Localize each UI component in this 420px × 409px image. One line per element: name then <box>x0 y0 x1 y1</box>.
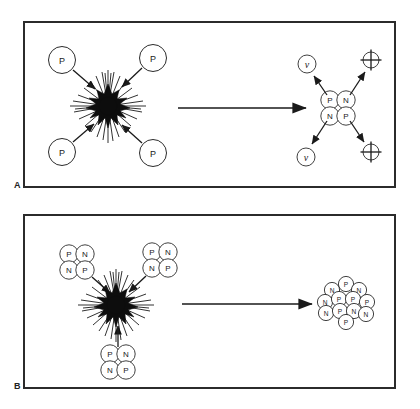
nucleon-label: N <box>149 264 155 273</box>
nucleon-label: P <box>327 96 332 105</box>
nucleon-label: P <box>344 281 349 288</box>
neutrino-label: ν <box>304 152 309 163</box>
fusion-burst-a <box>70 70 146 143</box>
nucleon-label: N <box>324 310 329 317</box>
nucleon-label: N <box>357 287 362 294</box>
nucleon-label: P <box>337 296 342 303</box>
helium-reactant-upper-left: P N N P <box>60 245 94 279</box>
emission-arrow-positron-upper <box>350 72 365 95</box>
proton-upper-left: P <box>49 47 76 74</box>
nucleon-label: N <box>343 96 349 105</box>
panel-a-label: A <box>14 180 21 190</box>
nucleon-label: N <box>364 311 369 318</box>
proton-arrow-lower-left <box>73 124 94 142</box>
emission-arrow-neutrino-upper <box>314 76 327 95</box>
emission-arrow-positron-lower <box>350 121 364 142</box>
nucleon-label: N <box>165 248 171 257</box>
proton-label: P <box>59 148 65 158</box>
nucleon-label: P <box>149 248 154 257</box>
nucleon-label: P <box>66 250 71 259</box>
nucleon-label: P <box>351 296 356 303</box>
neutrino-label: ν <box>305 59 310 70</box>
nucleon-label: P <box>165 264 170 273</box>
panel-a: A P P P P <box>14 22 395 190</box>
helium-reactant-bottom: P N N P <box>101 345 135 379</box>
emission-arrow-neutrino-lower <box>312 121 327 144</box>
nucleon-label: N <box>327 112 333 121</box>
nucleon-label: N <box>323 299 328 306</box>
positron-lower <box>361 142 382 163</box>
carbon-nucleus: P N N N P P P N P N N P <box>317 276 374 329</box>
nucleon-label: N <box>66 266 72 275</box>
helium-reactant-upper-right: P N N P <box>143 243 177 277</box>
nucleon-label: N <box>352 308 357 315</box>
proton-arrow-lower-right <box>122 125 142 143</box>
panel-b: B P N N P P N N P P N N P <box>14 215 395 391</box>
nucleon-label: N <box>330 287 335 294</box>
proton-label: P <box>59 56 65 66</box>
proton-label: P <box>150 54 156 64</box>
nucleon-label: P <box>338 308 343 315</box>
neutrino-upper: ν <box>298 55 316 73</box>
nucleon-label: N <box>123 350 129 359</box>
proton-arrow-upper-left <box>73 70 95 89</box>
nucleon-label: P <box>343 112 348 121</box>
nucleon-label: P <box>344 319 349 326</box>
panel-b-label: B <box>14 381 21 391</box>
proton-label: P <box>150 149 156 159</box>
nucleon-label: P <box>365 299 370 306</box>
helium-nucleus-a: P N N P <box>321 91 355 125</box>
proton-lower-right: P <box>140 140 167 167</box>
fusion-diagram-figure: A P P P P <box>0 0 420 409</box>
nucleon-label: P <box>107 350 112 359</box>
nucleon-label: P <box>123 366 128 375</box>
nucleon-label: N <box>107 366 113 375</box>
nucleon-label: N <box>82 250 88 259</box>
proton-upper-right: P <box>140 45 167 72</box>
positron-upper <box>361 50 382 71</box>
nucleon-label: P <box>82 266 87 275</box>
proton-lower-left: P <box>49 139 76 166</box>
proton-arrow-upper-right <box>122 68 142 87</box>
neutrino-lower: ν <box>297 148 315 166</box>
